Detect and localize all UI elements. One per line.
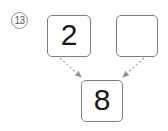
puzzle-diagram: 13 2 8: [0, 0, 168, 131]
addend-right-box[interactable]: [116, 15, 158, 57]
sum-value: 8: [94, 85, 111, 115]
addend-left-box[interactable]: 2: [47, 15, 91, 57]
arrow-right-to-sum: [123, 58, 144, 77]
circled-number-icon: 13: [11, 12, 28, 29]
arrow-left-to-sum: [60, 58, 81, 77]
addend-left-value: 2: [61, 20, 78, 50]
sum-box[interactable]: 8: [81, 80, 123, 122]
